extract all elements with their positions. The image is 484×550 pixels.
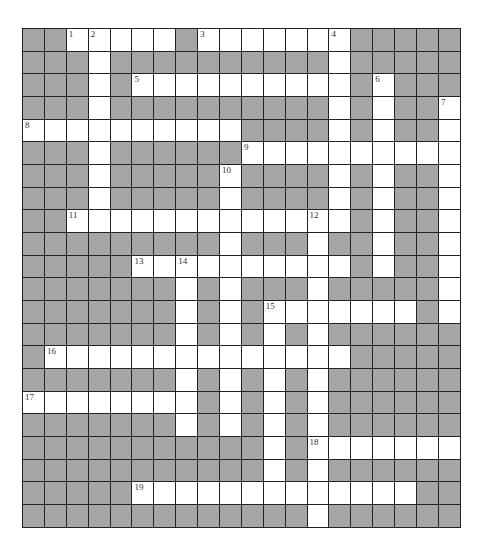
crossword-cell[interactable] [439,165,461,188]
crossword-cell[interactable] [220,414,242,437]
crossword-cell[interactable] [176,346,198,369]
crossword-cell[interactable] [308,505,330,528]
crossword-cell[interactable]: 13 [132,256,154,279]
crossword-cell[interactable] [264,324,286,347]
crossword-cell[interactable] [286,74,308,97]
crossword-cell[interactable]: 6 [373,74,395,97]
crossword-cell[interactable] [111,120,133,143]
crossword-cell[interactable] [176,120,198,143]
crossword-cell[interactable] [198,74,220,97]
crossword-cell[interactable] [286,256,308,279]
crossword-cell[interactable]: 19 [132,482,154,505]
crossword-cell[interactable] [111,210,133,233]
crossword-cell[interactable] [176,210,198,233]
crossword-cell[interactable] [329,301,351,324]
crossword-cell[interactable] [242,74,264,97]
crossword-cell[interactable] [351,142,373,165]
crossword-cell[interactable] [439,301,461,324]
crossword-cell[interactable]: 4 [329,29,351,52]
crossword-cell[interactable] [220,188,242,211]
crossword-cell[interactable] [351,301,373,324]
crossword-cell[interactable] [176,392,198,415]
crossword-cell[interactable] [89,52,111,75]
crossword-cell[interactable] [132,210,154,233]
crossword-cell[interactable] [198,482,220,505]
crossword-cell[interactable] [373,120,395,143]
crossword-cell[interactable] [308,369,330,392]
crossword-cell[interactable] [286,301,308,324]
crossword-cell[interactable] [176,414,198,437]
crossword-cell[interactable] [264,142,286,165]
crossword-cell[interactable] [67,346,89,369]
crossword-cell[interactable] [417,437,439,460]
crossword-cell[interactable] [111,392,133,415]
crossword-cell[interactable] [308,392,330,415]
crossword-cell[interactable] [242,346,264,369]
crossword-cell[interactable] [395,142,417,165]
crossword-cell[interactable] [286,142,308,165]
crossword-cell[interactable] [439,233,461,256]
crossword-cell[interactable] [329,346,351,369]
crossword-cell[interactable] [220,233,242,256]
crossword-cell[interactable] [176,301,198,324]
crossword-cell[interactable] [395,437,417,460]
crossword-cell[interactable]: 10 [220,165,242,188]
crossword-cell[interactable] [286,210,308,233]
crossword-cell[interactable] [373,482,395,505]
crossword-cell[interactable] [264,74,286,97]
crossword-cell[interactable] [308,256,330,279]
crossword-cell[interactable] [264,210,286,233]
crossword-cell[interactable] [329,120,351,143]
crossword-cell[interactable] [286,29,308,52]
crossword-cell[interactable] [89,165,111,188]
crossword-cell[interactable] [373,97,395,120]
crossword-cell[interactable] [154,120,176,143]
crossword-cell[interactable] [329,142,351,165]
crossword-cell[interactable]: 1 [67,29,89,52]
crossword-cell[interactable] [89,346,111,369]
crossword-cell[interactable] [439,278,461,301]
crossword-cell[interactable] [329,97,351,120]
crossword-cell[interactable] [220,278,242,301]
crossword-cell[interactable] [395,301,417,324]
crossword-cell[interactable] [154,256,176,279]
crossword-cell[interactable] [242,210,264,233]
crossword-cell[interactable] [89,392,111,415]
crossword-cell[interactable] [264,414,286,437]
crossword-cell[interactable] [220,346,242,369]
crossword-cell[interactable] [220,324,242,347]
crossword-cell[interactable] [198,210,220,233]
crossword-cell[interactable] [220,369,242,392]
crossword-cell[interactable] [308,346,330,369]
crossword-cell[interactable] [351,437,373,460]
crossword-cell[interactable] [439,120,461,143]
crossword-cell[interactable] [67,120,89,143]
crossword-cell[interactable] [308,142,330,165]
crossword-cell[interactable] [329,256,351,279]
crossword-cell[interactable] [308,29,330,52]
crossword-cell[interactable] [132,346,154,369]
crossword-cell[interactable] [329,482,351,505]
crossword-cell[interactable] [198,256,220,279]
crossword-cell[interactable] [111,29,133,52]
crossword-cell[interactable] [329,210,351,233]
crossword-cell[interactable] [220,210,242,233]
crossword-cell[interactable] [45,392,67,415]
crossword-cell[interactable]: 15 [264,301,286,324]
crossword-cell[interactable] [176,278,198,301]
crossword-cell[interactable] [154,346,176,369]
crossword-cell[interactable] [286,482,308,505]
crossword-cell[interactable] [395,482,417,505]
crossword-cell[interactable] [308,414,330,437]
crossword-cell[interactable] [154,29,176,52]
crossword-cell[interactable] [373,437,395,460]
crossword-cell[interactable]: 16 [45,346,67,369]
crossword-cell[interactable] [154,210,176,233]
crossword-cell[interactable] [439,188,461,211]
crossword-cell[interactable] [373,233,395,256]
crossword-cell[interactable] [176,324,198,347]
crossword-cell[interactable] [176,482,198,505]
crossword-cell[interactable] [373,301,395,324]
crossword-cell[interactable] [417,142,439,165]
crossword-cell[interactable]: 7 [439,97,461,120]
